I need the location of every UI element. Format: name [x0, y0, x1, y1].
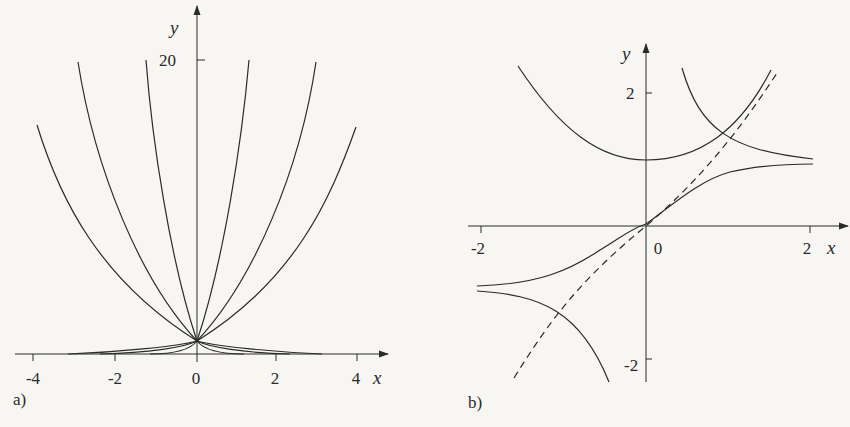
- panel-a-decay-2: [100, 341, 197, 354]
- panel-b-lower-left-curve: [477, 291, 609, 382]
- panel-b-x-label: x: [826, 237, 836, 258]
- panel-b-xtick-pos: 2: [803, 239, 812, 258]
- panel-a-ytick: 20: [159, 51, 176, 70]
- panel-b-ytick-neg: -2: [624, 356, 638, 375]
- panel-b-ytick-pos: 2: [626, 84, 635, 103]
- panel-a-xtick: 4: [352, 369, 361, 388]
- panel-b-s-curve: [477, 164, 813, 286]
- panel-b-xtick-neg: -2: [471, 239, 485, 258]
- panel-b-caption: b): [468, 393, 482, 412]
- panel-b: [468, 44, 848, 382]
- figure: -4 -2 0 2 4 x y 20 a) -2 0 2 x y 2 -2 b: [0, 0, 850, 427]
- panel-b-labels: -2 0 2 x y 2 -2 b): [468, 43, 836, 412]
- panel-a-y-label: y: [168, 17, 179, 38]
- panel-a-xtick: -4: [26, 369, 41, 388]
- panel-b-xtick-zero: 0: [654, 239, 663, 258]
- panel-b-y-label: y: [620, 43, 631, 64]
- panel-a-xtick: -2: [108, 369, 122, 388]
- panel-a-caption: a): [13, 390, 26, 409]
- panel-a-x-label: x: [372, 367, 382, 388]
- panel-a-xtick: 2: [271, 369, 280, 388]
- panel-b-upper-curve: [518, 66, 771, 160]
- panel-a-xtick: 0: [192, 369, 201, 388]
- panel-b-upper-right-curve: [682, 68, 813, 159]
- panel-a: [15, 6, 388, 362]
- panel-a-decay-5: [197, 341, 290, 354]
